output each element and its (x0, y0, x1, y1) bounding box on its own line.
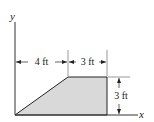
shaded-region (15, 77, 107, 115)
dimension-4ft-label: 4 ft (35, 56, 49, 67)
figure: y x 4 ft 3 ft 3 ft (0, 0, 154, 122)
dimension-3ft-top-label: 3 ft (81, 56, 95, 67)
dimension-3ft-height-label: 3 ft (114, 90, 128, 101)
x-axis-label: x (138, 108, 144, 120)
y-axis-label: y (9, 10, 15, 22)
